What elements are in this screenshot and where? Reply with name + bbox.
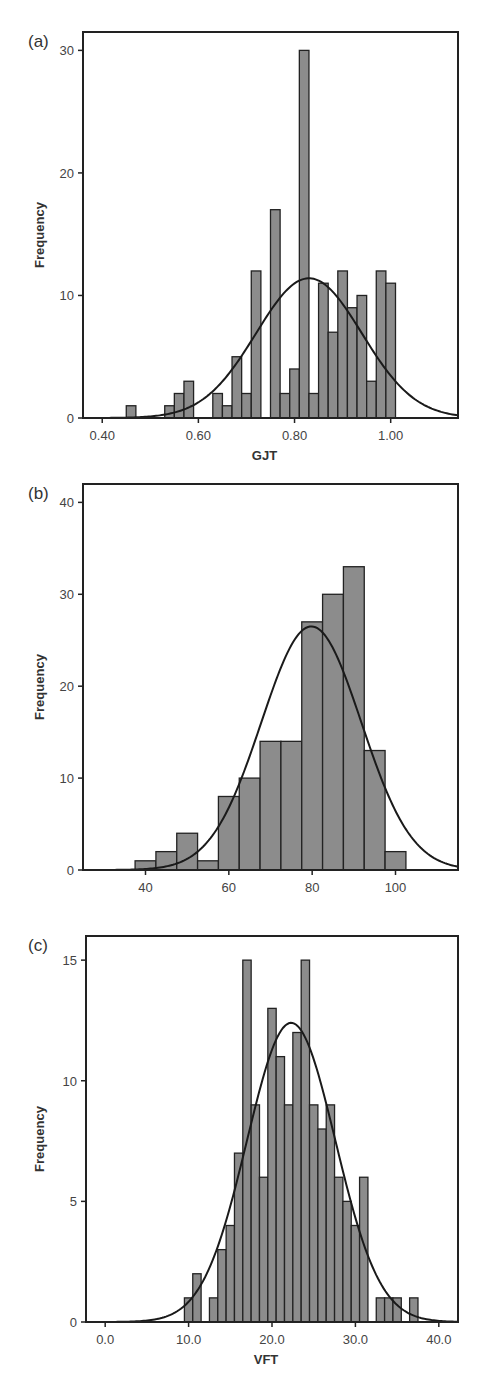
histogram-bar [271,210,281,418]
x-tick-label: 60 [222,880,236,895]
x-tick-label: 0.40 [90,428,115,443]
y-tick-label: 15 [63,953,77,968]
histogram-bar [209,1298,217,1322]
y-axis: 0102030 [60,43,83,426]
histogram-bars [126,50,395,418]
y-tick-label: 40 [60,495,74,510]
histogram-bar [276,1057,284,1322]
y-tick-label: 30 [60,43,74,58]
y-tick-label: 0 [70,1315,77,1330]
histogram-bar [386,283,396,418]
histogram-bar [177,833,198,870]
x-tick-label: 20.0 [259,1332,284,1347]
panel-label: (c) [28,936,48,955]
histogram-bar [198,861,219,870]
histogram-bars [135,567,406,870]
y-tick-label: 10 [63,1074,77,1089]
histogram-bar [302,622,323,870]
histogram-gjt: 01020300.400.600.801.00GJTFrequency(a) [0,0,481,460]
histogram-bar [357,295,367,418]
x-axis: 406080100 [138,870,406,895]
y-axis-title: Frequency [32,201,47,268]
histogram-bar [335,1177,343,1322]
y-axis: 051015 [63,953,86,1330]
histogram-bar [280,393,290,418]
histogram-bar [309,393,319,418]
histogram-bar [213,393,223,418]
histogram-bar [251,271,261,418]
histogram-panel-a: 01020300.400.600.801.00GJTFrequency(a) [0,0,481,460]
y-axis-title: Frequency [32,653,47,720]
histogram-bar [301,960,309,1322]
histogram-bar [293,1033,301,1323]
x-axis-title: C-Test [245,900,285,902]
histogram-bar [251,1105,259,1322]
panel-label: (a) [28,32,49,51]
histogram-bar [193,1274,201,1322]
y-tick-label: 10 [60,771,74,786]
histogram-bar [328,332,338,418]
histogram-bar [351,1226,359,1323]
x-tick-label: 80 [305,880,319,895]
y-tick-label: 0 [67,411,74,426]
histogram-bars [184,960,418,1322]
histogram-bar [326,1105,334,1322]
x-tick-label: 1.00 [378,428,403,443]
histogram-bar [338,271,348,418]
x-tick-label: 100 [385,880,407,895]
x-tick-label: 40.0 [426,1332,451,1347]
histogram-panel-c: 0510150.010.020.030.040.0VFTFrequency(c) [0,904,481,1390]
histogram-bar [364,751,385,870]
y-tick-label: 10 [60,288,74,303]
x-tick-label: 0.80 [282,428,307,443]
histogram-bar [376,1298,384,1322]
histogram-c-test: 010203040406080100C-TestFrequency(b) [0,452,481,902]
y-axis: 010203040 [60,495,83,878]
x-tick-label: 0.60 [186,428,211,443]
y-tick-label: 0 [67,863,74,878]
histogram-bar [174,393,184,418]
y-axis-title: Frequency [32,1105,47,1172]
x-axis: 0.010.020.030.040.0 [96,1322,451,1347]
histogram-bar [310,1105,318,1322]
histogram-bar [239,778,260,870]
x-tick-label: 10.0 [176,1332,201,1347]
histogram-bar [410,1298,418,1322]
histogram-bar [343,567,364,870]
histogram-bar [260,741,281,870]
y-tick-label: 20 [60,679,74,694]
histogram-bar [299,50,309,418]
x-axis: 0.400.600.801.00 [90,418,404,443]
y-tick-label: 30 [60,587,74,602]
histogram-bar [385,852,406,870]
histogram-bar [218,1250,226,1322]
histogram-bar [222,406,232,418]
histogram-bar [319,283,329,418]
histogram-bar [126,406,136,418]
histogram-panel-b: 010203040406080100C-TestFrequency(b) [0,452,481,902]
histogram-bar [242,393,252,418]
histogram-bar [376,271,386,418]
x-tick-label: 40 [138,880,152,895]
histogram-bar [367,381,377,418]
histogram-bar [343,1201,351,1322]
histogram-bar [385,1298,393,1322]
x-tick-label: 30.0 [343,1332,368,1347]
y-tick-label: 20 [60,166,74,181]
histogram-vft: 0510150.010.020.030.040.0VFTFrequency(c) [0,904,481,1390]
histogram-bar [285,1105,293,1322]
panel-label: (b) [28,484,49,503]
histogram-bar [318,1129,326,1322]
x-tick-label: 0.0 [96,1332,114,1347]
histogram-bar [259,1177,267,1322]
histogram-bar [281,741,302,870]
y-tick-label: 5 [70,1194,77,1209]
histogram-bar [226,1226,234,1323]
histogram-bar [184,381,194,418]
x-axis-title: VFT [254,1352,279,1367]
histogram-bar [290,369,300,418]
